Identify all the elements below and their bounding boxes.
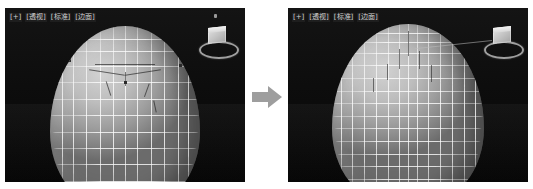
viewport-label-before[interactable]: [+] [透视] [标准] [边面] <box>9 13 96 22</box>
viewport-label-after[interactable]: [+] [透视] [标准] [边面] <box>292 13 379 22</box>
viewport-after[interactable]: [+] [透视] [标准] [边面] <box>288 8 528 182</box>
view-cube-home-icon[interactable] <box>214 14 217 18</box>
viewport-before[interactable]: [+] [透视] [标准] [边面] <box>5 8 245 182</box>
view-cube-compass-ring[interactable] <box>484 41 524 59</box>
viewport-label-token-shading[interactable]: [标准] <box>50 13 71 22</box>
view-cube-icon[interactable] <box>208 26 226 44</box>
view-cube-before[interactable] <box>197 22 237 62</box>
viewport-label-token-shading[interactable]: [标准] <box>333 13 354 22</box>
viewport-label-token-plus[interactable]: [+] <box>9 13 22 22</box>
view-cube-icon[interactable] <box>493 26 511 44</box>
view-cube-compass-ring[interactable] <box>199 41 239 59</box>
viewport-label-token-edgefaces[interactable]: [边面] <box>74 13 95 22</box>
viewport-label-token-view[interactable]: [透视] <box>25 13 46 22</box>
viewport-label-token-edgefaces[interactable]: [边面] <box>357 13 378 22</box>
vertex-marker <box>179 64 182 67</box>
arrow-right-icon <box>252 86 282 108</box>
viewport-label-token-plus[interactable]: [+] <box>292 13 305 22</box>
vertex-marker <box>124 81 127 84</box>
viewport-label-token-view[interactable]: [透视] <box>308 13 329 22</box>
view-cube-after[interactable] <box>482 22 522 62</box>
comparison-figure: [+] [透视] [标准] [边面] <box>0 0 533 189</box>
